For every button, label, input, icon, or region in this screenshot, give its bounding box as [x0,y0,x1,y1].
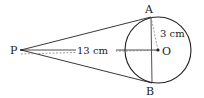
label-oa-length: 3 cm [160,28,185,39]
radius-oa [151,17,158,50]
label-point-p: P [10,44,18,57]
label-po-length: 13 cm [77,45,109,56]
point-p [20,49,22,51]
label-point-b: B [146,85,154,98]
center-point-o [156,48,159,51]
label-point-o: O [162,45,171,58]
label-point-a: A [144,3,154,16]
tangent-diagram: 13 cm 3 cm P O A B [0,0,204,98]
